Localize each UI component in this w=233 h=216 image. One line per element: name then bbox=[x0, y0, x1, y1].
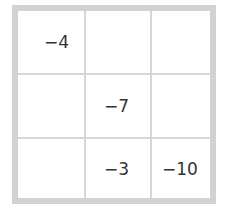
cell-r3-c3: −10 bbox=[152, 139, 210, 198]
cell-r2-c1 bbox=[18, 75, 84, 137]
cell-r1-c2 bbox=[86, 11, 150, 73]
cell-r1-c3 bbox=[152, 11, 210, 73]
cell-r2-c2: −7 bbox=[86, 75, 150, 137]
cell-r1-c1: −4 bbox=[18, 11, 84, 73]
cell-r2-c3 bbox=[152, 75, 210, 137]
number-grid: −4 −7 −3 −10 bbox=[12, 5, 216, 204]
cell-r3-c2: −3 bbox=[86, 139, 150, 198]
cell-r3-c1 bbox=[18, 139, 84, 198]
